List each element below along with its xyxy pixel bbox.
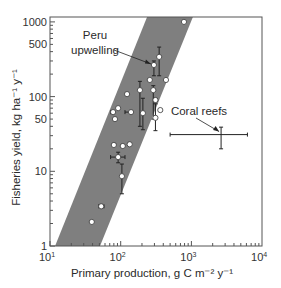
y-axis-title: Fisheries yield, kg ha⁻¹ y⁻¹: [10, 69, 22, 206]
data-point-marker: [147, 77, 152, 82]
peru-label: upwelling: [71, 44, 119, 56]
x-tick-label: 102: [110, 251, 126, 263]
data-point-marker: [124, 92, 129, 97]
data-point-marker: [158, 107, 163, 112]
data-point-marker: [140, 111, 145, 116]
data-point-marker: [111, 142, 116, 147]
data-point-marker: [181, 19, 186, 24]
data-point-marker: [110, 110, 115, 115]
data-point-marker: [112, 116, 117, 121]
x-tick-label: 101: [39, 251, 55, 263]
data-point-marker: [89, 219, 94, 224]
data-point-marker: [137, 88, 142, 93]
x-axis-title: Primary production, g C m⁻² y⁻¹: [71, 267, 233, 279]
y-tick-label: 1000: [23, 16, 47, 28]
y-tick-label: 50: [35, 113, 47, 125]
data-point-marker: [120, 143, 125, 148]
data-point-marker: [99, 204, 104, 209]
data-point-marker: [163, 77, 168, 82]
x-tick-label: 103: [180, 251, 196, 263]
data-point-marker: [116, 154, 121, 159]
data-point-marker: [128, 110, 133, 115]
data-point-marker: [153, 97, 158, 102]
data-point-marker: [151, 62, 156, 67]
data-point-marker: [151, 88, 156, 93]
scatter-chart: 110501005001000101102103104Primary produ…: [0, 0, 281, 288]
x-tick-label: 104: [251, 251, 267, 263]
y-tick-label: 100: [29, 91, 47, 103]
peru-label: Peru: [83, 29, 107, 41]
y-tick-label: 10: [35, 165, 47, 177]
data-point-marker: [153, 115, 158, 120]
chart-canvas: 110501005001000101102103104Primary produ…: [0, 0, 281, 288]
data-point-marker: [127, 142, 132, 147]
data-point-marker: [119, 174, 124, 179]
coral-reefs-label: Coral reefs: [171, 105, 227, 117]
y-tick-label: 500: [29, 38, 47, 50]
data-point-marker: [157, 54, 162, 59]
coral-arrowhead: [213, 126, 219, 131]
data-point-marker: [116, 106, 121, 111]
